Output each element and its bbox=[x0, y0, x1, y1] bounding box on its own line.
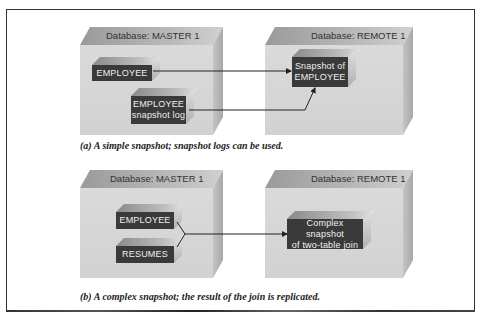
join-bracket bbox=[177, 222, 185, 247]
connector-arrows bbox=[0, 0, 490, 324]
arrow-log-to-snapshot bbox=[189, 88, 315, 110]
